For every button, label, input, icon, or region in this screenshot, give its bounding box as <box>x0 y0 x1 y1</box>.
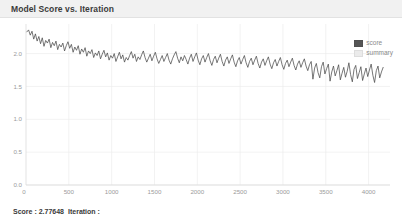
svg-text:1500: 1500 <box>148 188 162 195</box>
legend-item-score[interactable]: score <box>354 39 393 47</box>
status-bar: Score : 2.77648 Iteration : <box>0 207 402 221</box>
status-iteration: Iteration : <box>68 207 100 216</box>
chart-panel: Model Score vs. Iteration 0.00.51.01.52.… <box>0 0 402 221</box>
svg-text:2.0: 2.0 <box>13 50 22 57</box>
chart-area: 0.00.51.01.52.0 500100015002000250030003… <box>0 18 402 221</box>
svg-text:2000: 2000 <box>190 188 204 195</box>
legend-swatch-score <box>354 40 363 47</box>
y-axis-ticks: 0.00.51.01.52.0 <box>13 50 22 188</box>
panel-header: Model Score vs. Iteration <box>0 0 402 18</box>
svg-text:1000: 1000 <box>105 188 119 195</box>
legend-label-summary: summary <box>366 49 393 57</box>
svg-text:2500: 2500 <box>233 188 247 195</box>
svg-text:0: 0 <box>22 188 26 195</box>
status-score: Score : 2.77648 <box>13 207 64 216</box>
plot-canvas[interactable]: 0.00.51.01.52.0 500100015002000250030003… <box>0 18 402 221</box>
svg-text:3000: 3000 <box>276 188 290 195</box>
x-axis-ticks: 50010001500200025003000350040000 <box>22 188 376 195</box>
svg-text:3500: 3500 <box>319 188 333 195</box>
gridlines <box>26 24 390 185</box>
svg-text:0.0: 0.0 <box>13 181 22 188</box>
svg-text:500: 500 <box>64 188 75 195</box>
data-series <box>27 30 383 83</box>
svg-text:0.5: 0.5 <box>13 148 22 155</box>
legend-item-summary[interactable]: summary <box>354 49 393 57</box>
chart-legend: score summary <box>354 39 393 57</box>
legend-swatch-summary <box>354 50 363 57</box>
svg-text:4000: 4000 <box>362 188 376 195</box>
svg-text:1.5: 1.5 <box>13 83 22 90</box>
legend-label-score: score <box>366 39 382 47</box>
line-chart-svg: 0.00.51.01.52.0 500100015002000250030003… <box>0 18 402 207</box>
svg-text:1.0: 1.0 <box>13 115 22 122</box>
page-title: Model Score vs. Iteration <box>11 4 114 14</box>
